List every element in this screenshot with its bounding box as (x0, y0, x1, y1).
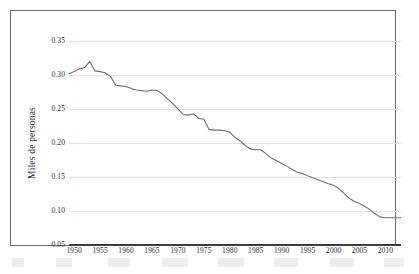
x-axis-tick-label: 1970 (170, 247, 185, 255)
y-axis-tick-labels: 0.350.300.250.200.150.100.05 (11, 41, 65, 245)
y-axis-tick-label: 0.30 (19, 71, 65, 79)
chart-frame: Miles de personas 0.350.300.250.200.150.… (10, 10, 396, 246)
x-axis-tick-label: 2000 (326, 247, 341, 255)
x-axis-tick-label: 1975 (196, 247, 211, 255)
x-axis-tick-label: 1995 (300, 247, 315, 255)
series-polyline (69, 61, 401, 217)
y-axis-tick-label: 0.35 (19, 37, 65, 45)
x-axis-tick-label: 2005 (352, 247, 367, 255)
x-axis-tick-label: 2010 (378, 247, 393, 255)
x-axis-tick-label: 1980 (222, 247, 237, 255)
x-axis-tick-label: 1990 (274, 247, 289, 255)
plot-area (69, 41, 401, 245)
chart-figure: Miles de personas 0.350.300.250.200.150.… (0, 0, 419, 274)
y-axis-tick-label: 0.20 (19, 139, 65, 147)
series-line-chart (69, 41, 401, 245)
scan-artifact (12, 258, 404, 267)
x-axis-tick-label: 1960 (118, 247, 133, 255)
y-axis-tick-label: 0.25 (19, 105, 65, 113)
y-axis-tick-label: 0.05 (19, 241, 65, 249)
x-axis-tick-label: 1950 (66, 247, 81, 255)
y-axis-tick-label: 0.10 (19, 207, 65, 215)
x-axis-tick-label: 1985 (248, 247, 263, 255)
x-axis-tick-label: 1955 (92, 247, 107, 255)
x-axis-tick-label: 1965 (144, 247, 159, 255)
y-axis-tick-label: 0.15 (19, 173, 65, 181)
